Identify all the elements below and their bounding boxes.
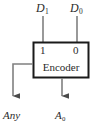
encoder-diagram: D1 D0 1 0 Encoder Any A0 <box>0 0 99 127</box>
port-digit-0: 0 <box>73 45 79 56</box>
input-label-d1: D1 <box>36 2 48 14</box>
output-wire-any <box>13 64 33 96</box>
encoder-block-label: Encoder <box>33 62 89 73</box>
output-label-a0-subscript: 0 <box>62 115 65 122</box>
output-label-a0-base: A <box>55 109 62 121</box>
input-label-d1-base: D <box>36 1 45 15</box>
output-label-any: Any <box>3 110 20 121</box>
port-digit-1: 1 <box>40 45 46 56</box>
input-label-d1-subscript: 1 <box>45 7 49 16</box>
input-label-d0-base: D <box>70 1 79 15</box>
input-label-d0-subscript: 0 <box>79 7 83 16</box>
input-label-d0: D0 <box>70 2 82 14</box>
output-label-a0: A0 <box>55 110 65 121</box>
output-label-any-base: Any <box>3 109 20 121</box>
